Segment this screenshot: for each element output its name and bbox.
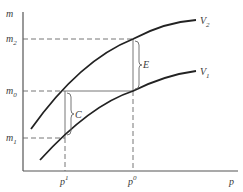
solid-guides: [65, 39, 133, 138]
brace-e: [135, 41, 142, 89]
tick-m0: m0: [6, 85, 17, 99]
label-c: C: [75, 109, 82, 120]
curve-v2: [31, 20, 196, 129]
label-v1: V1: [200, 66, 210, 80]
tick-p0: p0: [127, 174, 137, 187]
tick-m2: m2: [6, 33, 17, 47]
x-axis-label: p: [228, 176, 234, 187]
tick-m1: m1: [6, 132, 17, 146]
guide-lines: [23, 39, 133, 171]
y-axis-label: m: [6, 8, 13, 19]
tick-p1: p1: [59, 174, 69, 187]
label-v2: V2: [200, 15, 210, 29]
curve-v1: [40, 71, 196, 160]
indifference-diagram: m p m2 m0 m1 p1 p0 V2 V1 C E: [0, 0, 243, 192]
label-e: E: [142, 59, 149, 70]
